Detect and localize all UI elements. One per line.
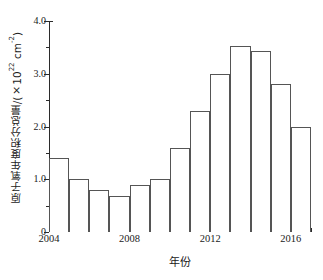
bar xyxy=(130,185,150,232)
bar xyxy=(210,74,230,232)
bar xyxy=(170,148,190,232)
x-axis-tick-labels: 2004200820122016 xyxy=(49,234,311,250)
y-axis-exponent: 22 xyxy=(8,62,16,71)
bars-layer xyxy=(49,21,311,232)
y-axis-unit-exponent: -2 xyxy=(8,36,16,43)
bar-chart: 原子氧年度积分总量/(×1022 cm-2) 01.02.03.04.0 200… xyxy=(0,0,323,280)
bar xyxy=(251,51,271,232)
x-tick xyxy=(311,228,312,232)
bar xyxy=(69,179,89,232)
x-tick-label: 2004 xyxy=(39,234,60,245)
bar xyxy=(109,196,129,232)
bar xyxy=(49,158,69,232)
plot-area xyxy=(49,21,311,232)
x-tick-label: 2012 xyxy=(200,234,221,245)
x-tick-label: 2016 xyxy=(280,234,301,245)
y-axis-title-text: 原子氧年度积分总量/(×1022 cm-2) xyxy=(9,32,22,203)
x-axis-title: 年份 xyxy=(49,253,311,269)
bar xyxy=(89,190,109,232)
bar xyxy=(150,179,170,232)
bar xyxy=(271,84,291,232)
x-tick-label: 2008 xyxy=(119,234,140,245)
bar xyxy=(291,127,311,233)
bar xyxy=(230,46,250,232)
bar xyxy=(190,111,210,232)
